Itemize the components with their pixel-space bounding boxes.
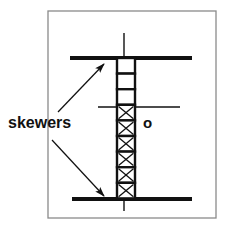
box-cell-empty [117,74,135,90]
figure-canvas: skewers o [0,0,228,229]
box-cell-empty [117,58,135,74]
box-cell-crossed [117,183,135,199]
box-cell-empty [117,89,135,105]
box-cell-crossed [117,167,135,183]
box-column [117,58,135,198]
skewers-label: skewers [8,114,71,132]
arrow-to-top-skewer [58,64,104,112]
box-cell-crossed [117,105,135,121]
box-cell-crossed [117,152,135,168]
arrow-to-bottom-skewer [52,140,104,196]
origin-marker-label: o [143,114,152,131]
box-cell-crossed [117,136,135,152]
box-cell-crossed [117,120,135,136]
